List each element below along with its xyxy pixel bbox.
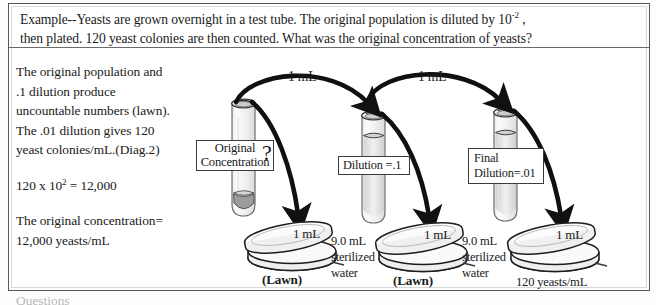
explanation-p1-line1: The original population and bbox=[16, 64, 162, 79]
colony-count-label: 120 yeasts/mL bbox=[516, 275, 587, 290]
clipped-next-section-text: Questions bbox=[16, 294, 70, 305]
conclusion-line1: The original concentration= bbox=[16, 213, 163, 228]
water-1-line3: water bbox=[331, 266, 358, 280]
figure-page: Example--Yeasts are grown overnight in a… bbox=[0, 0, 656, 305]
prompt-exponent: -2 bbox=[512, 10, 519, 20]
prompt-line-2: then plated. 120 yeast colonies are then… bbox=[20, 31, 532, 46]
calculation-line: 120 x 102 = 12,000 bbox=[16, 173, 216, 196]
plate-volume-3: 1 mL bbox=[556, 228, 583, 243]
explanation-p1-line4: The .01 dilution gives 120 bbox=[16, 123, 154, 138]
sterile-water-label-2: 9.0 mL sterilized water bbox=[462, 233, 520, 282]
original-concentration-line2: Concentration bbox=[201, 155, 270, 169]
spacer-1 bbox=[16, 160, 216, 173]
transfer-volume-1: 1 mL bbox=[288, 70, 316, 85]
calculation-result: = 12,000 bbox=[66, 178, 116, 193]
water-1-line2: sterilized bbox=[331, 250, 375, 264]
water-2-line2: sterilized bbox=[462, 250, 506, 264]
spacer-2 bbox=[16, 196, 216, 211]
conclusion-paragraph: The original concentration= 12,000 yeast… bbox=[16, 211, 216, 250]
prompt-line-1-b: , bbox=[519, 12, 526, 27]
explanation-p1-line2: .1 dilution produce bbox=[16, 84, 116, 99]
transfer-volume-2: 1 mL bbox=[418, 70, 446, 85]
prompt-line-1-a: Example--Yeasts are grown overnight in a… bbox=[20, 12, 512, 27]
sterile-water-label-1: 9.0 mL sterilized water bbox=[331, 233, 389, 282]
final-dilution-line1: Final bbox=[474, 151, 498, 165]
explanation-p1-line3: uncountable numbers (lawn). bbox=[16, 103, 170, 118]
final-dilution-label: Final Dilution=.01 bbox=[468, 148, 544, 184]
final-dilution-line2: Dilution=.01 bbox=[474, 166, 535, 180]
dilution-1-label: Dilution =.1 bbox=[338, 156, 410, 175]
explanation-paragraph-1: The original population and .1 dilution … bbox=[16, 62, 216, 160]
water-1-line1: 9.0 mL bbox=[331, 234, 366, 248]
water-2-line1: 9.0 mL bbox=[462, 234, 497, 248]
calculation-prefix: 120 x 10 bbox=[16, 178, 62, 193]
water-2-line3: water bbox=[462, 266, 489, 280]
lawn-label-1: (Lawn) bbox=[262, 273, 302, 288]
explanation-column: The original population and .1 dilution … bbox=[16, 62, 216, 250]
example-prompt: Example--Yeasts are grown overnight in a… bbox=[20, 6, 638, 49]
plate-volume-1: 1 mL bbox=[293, 227, 320, 242]
lawn-label-2: (Lawn) bbox=[393, 274, 433, 289]
question-mark: ? bbox=[262, 142, 272, 164]
explanation-p1-line5: yeast colonies/mL.(Diag.2) bbox=[16, 142, 160, 157]
conclusion-line2: 12,000 yeasts/mL bbox=[16, 233, 110, 248]
original-concentration-line1: Original bbox=[215, 141, 255, 155]
plate-volume-2: 1 mL bbox=[424, 228, 451, 243]
